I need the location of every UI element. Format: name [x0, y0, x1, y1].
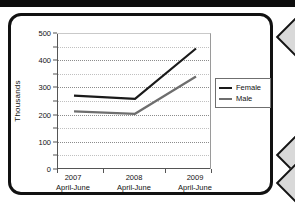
y-tick-label-500: 500 [29, 29, 51, 38]
x-tick-label-2008: 2008 April-June [117, 173, 151, 193]
x-tick-label-2009-period: April-June [178, 183, 212, 193]
y-tick-label-100: 100 [29, 137, 51, 146]
chart-legend: Female Male [215, 78, 271, 108]
y-tick-label-400: 400 [29, 56, 51, 65]
x-tick-label-2008-period: April-June [117, 183, 151, 193]
x-tick-label-2007-year: 2007 [56, 173, 90, 183]
legend-label-female: Female [236, 83, 261, 92]
y-axis-label: Thousands [13, 80, 22, 121]
y-tick-label-200: 200 [29, 110, 51, 119]
x-tick-label-2008-year: 2008 [117, 173, 151, 183]
legend-item-male: Male [219, 93, 267, 104]
legend-swatch-female-icon [219, 87, 232, 89]
page-edge-chevron-icon-3 [276, 162, 295, 204]
x-tick-mark-2 [165, 169, 166, 173]
x-tick-mark-1 [103, 169, 104, 173]
legend-item-female: Female [219, 82, 267, 93]
x-tick-label-2007-period: April-June [56, 183, 90, 193]
figure-frame: Thousands 500 400 300 200 100 0 [8, 13, 273, 195]
legend-swatch-male-icon [219, 98, 232, 100]
x-tick-label-2007: 2007 April-June [56, 173, 90, 193]
line-chart: Thousands 500 400 300 200 100 0 [11, 16, 270, 192]
series-line-female [74, 49, 196, 99]
x-tick-label-2009: 2009 April-June [178, 173, 212, 193]
y-tick-label-0: 0 [29, 165, 51, 174]
x-tick-label-2009-year: 2009 [178, 173, 212, 183]
page-top-bar [0, 0, 295, 7]
page-edge-chevron-icon-1 [276, 16, 295, 58]
series-lines [58, 33, 212, 169]
plot-area [57, 33, 211, 169]
legend-label-male: Male [236, 94, 252, 103]
y-tick-label-300: 300 [29, 83, 51, 92]
series-line-male [74, 77, 196, 114]
